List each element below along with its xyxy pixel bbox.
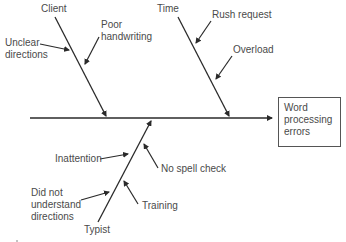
effect-line1: Word: [284, 102, 335, 114]
inattention-arrow: [100, 154, 128, 159]
category-client: Client: [41, 3, 67, 15]
overload-arrow: [216, 56, 232, 79]
cause-overload: Overload: [233, 44, 274, 56]
didnot-arrow: [81, 192, 109, 200]
cause-poor-line1: Poor: [101, 19, 122, 31]
category-time: Time: [157, 3, 179, 15]
effect-line2: processing: [284, 114, 335, 126]
effect-line3: errors: [284, 126, 335, 138]
cause-inattention: Inattention: [55, 153, 102, 165]
nospell-arrow: [144, 144, 158, 168]
cause-poor-line2: handwriting: [101, 31, 152, 43]
effect-box: Word processing errors: [278, 97, 341, 147]
cause-rush: Rush request: [212, 9, 271, 21]
poor-arrow: [85, 37, 99, 64]
cause-nospell: No spell check: [161, 163, 226, 175]
category-typist: Typist: [84, 224, 110, 236]
client-bone: [55, 17, 106, 116]
rush-arrow: [196, 21, 211, 43]
cause-didnot-line1: Did not: [31, 187, 63, 199]
training-arrow: [124, 181, 138, 204]
cause-didnot-line3: directions: [31, 211, 74, 223]
cause-unclear-line2: directions: [5, 49, 48, 61]
cause-unclear-line1: Unclear: [5, 37, 39, 49]
cause-training: Training: [142, 200, 178, 212]
cause-didnot-line2: understand: [31, 199, 81, 211]
